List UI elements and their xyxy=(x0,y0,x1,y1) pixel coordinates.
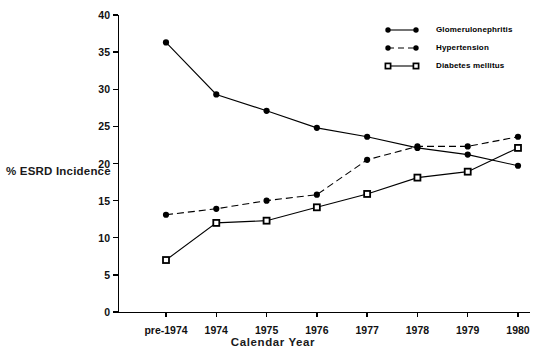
x-tick-label-pre-1974: pre-1974 xyxy=(144,324,187,336)
data-point xyxy=(314,125,320,131)
x-tick-label-1974: 1974 xyxy=(205,324,228,336)
data-point xyxy=(414,143,420,149)
data-point xyxy=(314,192,320,198)
data-point xyxy=(263,108,269,114)
legend-item-diabetes-mellitus: Diabetes mellitus xyxy=(383,58,543,76)
data-point xyxy=(314,204,320,210)
y-tick-label-10: 10 xyxy=(98,232,110,244)
series-diabetes-mellitus xyxy=(163,145,521,263)
legend-item-hypertension: Hypertension xyxy=(383,40,543,58)
data-point xyxy=(515,145,521,151)
data-point xyxy=(465,169,471,175)
y-axis-label: % ESRD Incidence xyxy=(6,165,111,177)
x-tick-pre-1974 xyxy=(165,312,166,317)
data-point xyxy=(465,151,471,157)
data-point xyxy=(515,134,521,140)
x-axis-label: Calendar Year xyxy=(0,336,546,348)
x-tick-label-1979: 1979 xyxy=(456,324,479,336)
data-point xyxy=(213,220,219,226)
chart-figure: % ESRD Incidence Calendar Year 051015202… xyxy=(0,0,546,358)
data-point xyxy=(364,191,370,197)
legend-marker-icon xyxy=(383,40,431,58)
y-tick-label-15: 15 xyxy=(98,195,110,207)
x-tick-1975 xyxy=(266,312,267,317)
series-hypertension xyxy=(163,134,521,218)
data-point xyxy=(414,175,420,181)
y-tick-label-0: 0 xyxy=(104,306,110,318)
legend-label: Diabetes mellitus xyxy=(436,61,504,70)
legend-label: Glomerulonephritis xyxy=(436,25,513,34)
data-point xyxy=(263,198,269,204)
data-point xyxy=(163,39,169,45)
series-line xyxy=(166,137,518,215)
data-point xyxy=(163,257,169,263)
data-point xyxy=(364,134,370,140)
x-tick-label-1976: 1976 xyxy=(305,324,328,336)
data-point xyxy=(213,206,219,212)
legend-item-glomerulonephritis: Glomerulonephritis xyxy=(383,22,543,40)
y-tick-label-20: 20 xyxy=(98,158,110,170)
x-tick-1979 xyxy=(467,312,468,317)
x-tick-1977 xyxy=(366,312,367,317)
x-tick-1974 xyxy=(216,312,217,317)
y-tick-label-5: 5 xyxy=(104,269,110,281)
x-tick-label-1977: 1977 xyxy=(355,324,378,336)
y-tick-label-30: 30 xyxy=(98,83,110,95)
x-tick-label-1978: 1978 xyxy=(406,324,429,336)
y-tick-label-35: 35 xyxy=(98,46,110,58)
y-tick-label-25: 25 xyxy=(98,120,110,132)
chart-legend: GlomerulonephritisHypertensionDiabetes m… xyxy=(383,22,543,76)
legend-marker-icon xyxy=(383,22,431,40)
data-point xyxy=(515,163,521,169)
data-point xyxy=(213,91,219,97)
x-tick-label-1980: 1980 xyxy=(506,324,529,336)
data-point xyxy=(465,143,471,149)
x-tick-1978 xyxy=(417,312,418,317)
data-point xyxy=(264,218,270,224)
data-point xyxy=(364,157,370,163)
data-point xyxy=(163,212,169,218)
y-tick-label-40: 40 xyxy=(98,9,110,21)
x-tick-label-1975: 1975 xyxy=(255,324,278,336)
legend-label: Hypertension xyxy=(436,43,489,52)
x-tick-1980 xyxy=(517,312,518,317)
series-line xyxy=(166,148,518,260)
legend-marker-icon xyxy=(383,58,431,76)
x-tick-1976 xyxy=(316,312,317,317)
